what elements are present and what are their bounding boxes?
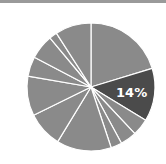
- pie-labels: 14%: [116, 85, 147, 100]
- slice-percent-label: 14%: [116, 85, 147, 100]
- pie-chart: 14%: [0, 0, 166, 164]
